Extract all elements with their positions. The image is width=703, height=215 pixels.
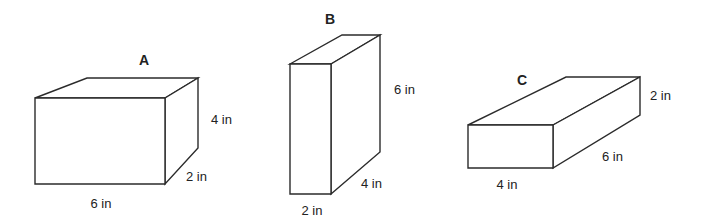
- box-a-length-label: 6 in: [91, 196, 112, 211]
- box-b-side-face: [331, 35, 380, 194]
- box-b-height-label: 6 in: [394, 82, 415, 97]
- box-b-depth-label: 4 in: [361, 176, 382, 191]
- diagram-canvas: A 4 in 2 in 6 in B 6 in 4 in 2 in C 2 in…: [0, 0, 703, 215]
- box-a-front-face: [35, 98, 165, 184]
- box-c-front-face: [468, 125, 553, 168]
- box-b-length-label: 2 in: [302, 203, 323, 215]
- box-b-front-face: [290, 64, 331, 194]
- box-a-height-label: 4 in: [211, 112, 232, 127]
- box-a-title: A: [139, 52, 149, 68]
- box-a-depth-label: 2 in: [186, 169, 207, 184]
- box-b-title: B: [325, 11, 335, 27]
- box-c-title: C: [517, 72, 527, 88]
- box-c: C 2 in 6 in 4 in: [468, 72, 671, 192]
- box-c-height-label: 2 in: [650, 88, 671, 103]
- box-c-length-label: 4 in: [497, 177, 518, 192]
- prisms-diagram: A 4 in 2 in 6 in B 6 in 4 in 2 in C 2 in…: [0, 0, 703, 215]
- box-c-depth-label: 6 in: [602, 149, 623, 164]
- box-a: A 4 in 2 in 6 in: [35, 52, 232, 211]
- box-b: B 6 in 4 in 2 in: [290, 11, 415, 215]
